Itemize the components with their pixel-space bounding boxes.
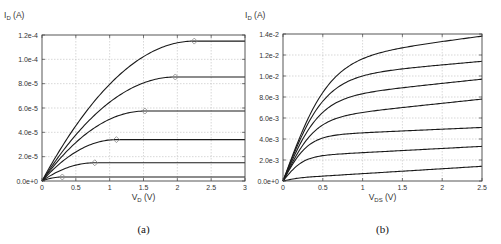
chart-b-grid: [283, 34, 482, 181]
x-tick-label: 2.5: [477, 184, 487, 191]
x-tick-label: 1.5: [139, 184, 149, 191]
x-tick-label: 1: [108, 184, 112, 191]
chart-b-plot-frame: [283, 34, 482, 181]
y-tick-label: 6.0e-5: [18, 105, 38, 112]
chart-a-y-axis-label: ID (A): [4, 10, 25, 21]
y-tick-label: 2.0e-5: [18, 153, 38, 160]
y-tick-label: 2.0e-3: [259, 157, 279, 164]
data-curve: [283, 36, 482, 181]
x-tick-label: 2: [440, 184, 444, 191]
y-tick-label: 8.0e-3: [259, 94, 279, 101]
data-curve: [283, 99, 482, 181]
x-tick-label: 0.5: [71, 184, 81, 191]
y-tick-label: 1.0e-4: [18, 56, 38, 63]
y-tick-label: 0.0e+0: [16, 178, 38, 185]
chart-b-caption: (b): [376, 223, 389, 236]
x-tick-label: 1: [361, 184, 365, 191]
x-tick-label: 0.5: [318, 184, 328, 191]
x-tick-label: 0: [281, 184, 285, 191]
chart-a-id-vd: 00.511.522.53 0.0e+02.0e-54.0e-56.0e-58.…: [4, 10, 247, 236]
x-tick-label: 0: [40, 184, 44, 191]
data-curve: [283, 79, 482, 181]
chart-a-caption: (a): [137, 223, 150, 236]
chart-b-id-vds: 00.511.522.5 0.0e+02.0e-34.0e-36.0e-38.0…: [245, 10, 487, 236]
x-tick-label: 2.5: [206, 184, 216, 191]
chart-b-curves: [283, 36, 482, 181]
x-tick-label: 1.5: [398, 184, 408, 191]
x-tick-label: 3: [243, 184, 247, 191]
data-curve: [283, 61, 482, 181]
y-tick-label: 0.0e+0: [257, 178, 279, 185]
chart-b-x-axis-label: VDS (V): [369, 192, 397, 203]
x-tick-label: 2: [175, 184, 179, 191]
y-tick-label: 1.2e-2: [259, 52, 279, 59]
y-tick-label: 1.4e-2: [259, 31, 279, 38]
y-tick-label: 8.0e-5: [18, 80, 38, 87]
y-tick-label: 4.0e-3: [259, 136, 279, 143]
chart-a-saturation-markers: [59, 38, 197, 180]
y-tick-label: 1.0e-2: [259, 73, 279, 80]
data-curve: [283, 146, 482, 181]
y-tick-label: 6.0e-3: [259, 115, 279, 122]
chart-b-y-axis-label: ID (A): [245, 10, 266, 21]
figure: 00.511.522.53 0.0e+02.0e-54.0e-56.0e-58.…: [0, 0, 501, 244]
y-tick-label: 1.2e-4: [18, 32, 38, 39]
y-tick-label: 4.0e-5: [18, 129, 38, 136]
chart-a-x-axis-label: VD (V): [132, 192, 156, 203]
data-curve: [283, 166, 482, 181]
